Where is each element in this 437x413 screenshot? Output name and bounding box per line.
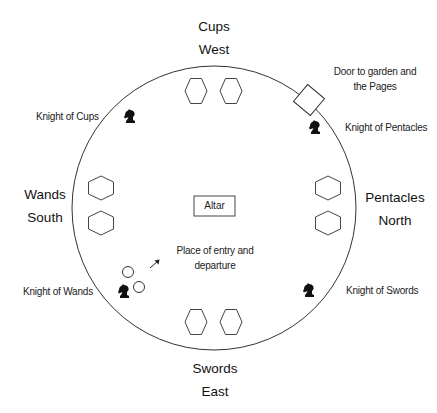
seat-hexagon-top-1 <box>185 79 207 104</box>
door-label-line2: the Pages <box>315 79 435 94</box>
entry-marker-circle-1 <box>123 267 134 278</box>
seat-hexagon-right-1 <box>316 176 341 200</box>
knight-of-wands-icon <box>118 284 129 298</box>
direction-south: South <box>23 206 67 229</box>
seat-hexagon-right-2 <box>316 211 341 235</box>
suit-pentacles: Pentacles <box>360 186 430 209</box>
ritual-room-diagram: Cups West Wands South Pentacles North Sw… <box>0 0 437 413</box>
suit-swords: Swords <box>190 357 240 380</box>
seat-hexagon-left-1 <box>89 176 114 200</box>
knight-of-pentacles-label: Knight of Pentacles <box>345 123 427 133</box>
direction-north: North <box>360 209 430 232</box>
door-label-line1: Door to garden and <box>315 64 435 79</box>
door-label: Door to garden and the Pages <box>315 64 435 94</box>
entry-label-line2: departure <box>160 258 270 273</box>
entry-marker-circle-2 <box>134 282 145 293</box>
altar-label: Altar <box>194 201 235 211</box>
quarter-label-top: Cups West <box>194 15 234 61</box>
quarter-label-bottom: Swords East <box>190 357 240 403</box>
entry-label: Place of entry and departure <box>160 243 270 273</box>
knight-of-cups-label: Knight of Cups <box>36 112 99 122</box>
seat-hexagon-bottom-1 <box>185 310 207 335</box>
suit-cups: Cups <box>194 15 234 38</box>
direction-west: West <box>194 38 234 61</box>
seat-hexagon-left-2 <box>89 211 114 235</box>
knight-of-swords-label: Knight of Swords <box>346 286 418 296</box>
knight-of-swords-icon <box>303 283 314 297</box>
entry-label-line1: Place of entry and <box>160 243 270 258</box>
seat-hexagon-top-2 <box>220 79 242 104</box>
direction-east: East <box>190 380 240 403</box>
knight-of-pentacles-icon <box>309 120 320 134</box>
quarter-label-left: Wands South <box>23 183 67 229</box>
knight-of-cups-icon <box>124 109 135 123</box>
seat-hexagon-bottom-2 <box>220 310 242 335</box>
suit-wands: Wands <box>23 183 67 206</box>
quarter-label-right: Pentacles North <box>360 186 430 232</box>
arrow-up-right-icon <box>150 260 160 269</box>
knight-of-wands-label: Knight of Wands <box>23 287 93 297</box>
